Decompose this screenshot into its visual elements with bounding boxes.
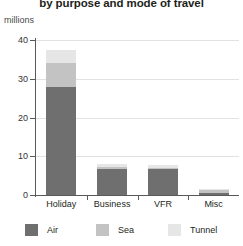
chart-title: by purpose and mode of travel — [0, 0, 243, 10]
y-axis-tick-label: 0 — [8, 191, 28, 200]
y-axis-tick-label: 40 — [8, 36, 28, 45]
y-axis-unit-label: millions — [4, 15, 34, 26]
legend-label: Sea — [118, 224, 134, 236]
bar-business — [97, 164, 127, 195]
gridline — [36, 40, 239, 41]
legend-label: Tunnel — [190, 224, 217, 236]
x-axis-label-vfr: VFR — [138, 199, 189, 209]
bar-segment-air — [46, 87, 76, 196]
y-axis-tick — [30, 156, 35, 157]
bar-segment-tunnel — [46, 50, 76, 64]
plot-area — [36, 40, 239, 195]
y-axis-tick — [30, 118, 35, 119]
bar-segment-air — [199, 193, 229, 195]
chart-legend: AirSeaTunnel — [0, 224, 243, 242]
bar-vfr — [148, 165, 178, 195]
x-axis-label-business: Business — [87, 199, 138, 209]
chart-container: by purpose and mode of travel millions 0… — [0, 0, 243, 246]
x-axis-label-misc: Misc — [188, 199, 239, 209]
y-axis-tick-label: 30 — [8, 75, 28, 84]
bar-segment-air — [97, 169, 127, 195]
bar-segment-sea — [46, 63, 76, 86]
legend-swatch-tunnel-icon — [168, 224, 181, 236]
y-axis-tick — [30, 79, 35, 80]
bar-misc — [199, 189, 229, 195]
y-axis-tick-label: 10 — [8, 152, 28, 161]
legend-swatch-air-icon — [25, 224, 38, 236]
x-axis-label-holiday: Holiday — [36, 199, 87, 209]
bar-segment-air — [148, 169, 178, 195]
x-axis-tick — [188, 195, 189, 200]
legend-item-tunnel[interactable]: Tunnel — [168, 224, 217, 236]
legend-item-air[interactable]: Air — [25, 224, 58, 236]
x-axis-tick — [138, 195, 139, 200]
y-axis-tick-label: 20 — [8, 114, 28, 123]
y-axis-tick — [30, 40, 35, 41]
legend-label: Air — [47, 224, 58, 236]
y-axis-tick — [30, 195, 35, 196]
x-axis-tick — [87, 195, 88, 200]
legend-item-sea[interactable]: Sea — [96, 224, 134, 236]
bar-holiday — [46, 50, 76, 195]
legend-swatch-sea-icon — [96, 224, 109, 236]
